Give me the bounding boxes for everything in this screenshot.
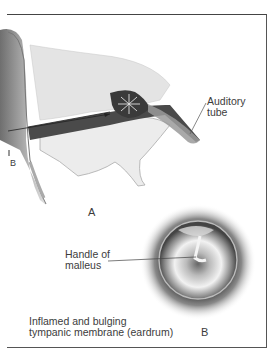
panel-b-drawing — [108, 204, 256, 320]
auditory-tube-leader-line — [190, 103, 206, 134]
auditory-tube-label: Auditory tube — [207, 96, 246, 118]
edge-marker-b: B — [10, 158, 16, 169]
panel-b-caption: Inflamed and bulging tympanic membrane (… — [29, 316, 173, 338]
malleus-label-line2: malleus — [65, 260, 110, 271]
caption-line2: tympanic membrane (eardrum) — [29, 327, 173, 338]
handle-of-malleus-label: Handle of malleus — [65, 249, 110, 271]
ear-anatomy-illustration — [0, 0, 279, 361]
panel-b-label: B — [201, 327, 208, 338]
panel-a-label: A — [88, 207, 95, 218]
auditory-tube-label-line2: tube — [207, 107, 246, 118]
panel-a-drawing — [0, 29, 206, 205]
